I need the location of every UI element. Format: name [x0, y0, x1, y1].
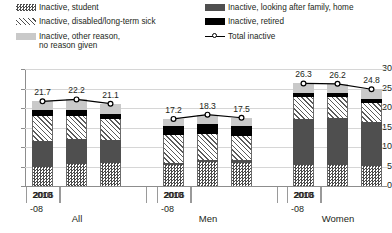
legend-label-retired: Inactive, retired: [228, 17, 284, 26]
legend-item-student: Inactive, student: [16, 3, 99, 12]
total-inactive-marker: [108, 101, 113, 106]
x-axis-category-2013: 2013: [287, 187, 321, 203]
x-axis-category-sub: -08: [291, 204, 304, 214]
legend-item-family: Inactive, looking after family, home: [205, 3, 353, 12]
x-axis-category-sub: -08: [161, 204, 174, 214]
legend-item-retired: Inactive, retired: [205, 17, 284, 26]
total-inactive-value-label: 17.5: [226, 105, 258, 114]
legend-label-total: Total inactive: [228, 32, 275, 41]
total-inactive-value-label: 21.1: [95, 91, 127, 100]
x-axis-category-2013: 2013: [26, 187, 60, 203]
total-inactive-value-label: 17.2: [158, 106, 190, 115]
total-inactive-value-label: 22.2: [61, 86, 93, 95]
legend-label-other-line1: Inactive, other reason,: [39, 32, 120, 41]
diagonal-hatch-swatch-icon: [16, 18, 36, 25]
total-inactive-marker: [369, 87, 374, 92]
total-inactive-value-label: 26.2: [322, 71, 354, 80]
total-inactive-marker: [301, 81, 306, 86]
legend-label-family: Inactive, looking after family, home: [228, 3, 353, 12]
legend-label-student: Inactive, student: [39, 3, 99, 12]
total-inactive-marker: [335, 81, 340, 86]
x-axis-category-2013: 2013: [157, 187, 191, 203]
x-axis-group-label-men: Men: [157, 214, 259, 224]
light-gray-swatch-icon: [16, 33, 36, 40]
x-axis-group-label-women: Women: [287, 214, 389, 224]
total-inactive-value-label: 21.7: [27, 88, 59, 97]
total-inactive-value-label: 26.3: [288, 70, 320, 79]
chart-legend: Inactive, student Inactive, disabled/lon…: [0, 0, 392, 58]
x-axis-category-sub: -08: [30, 204, 43, 214]
legend-label-other-line2: no reason given: [39, 41, 120, 50]
total-inactive-value-label: 18.3: [192, 102, 224, 111]
total-inactive-marker: [239, 115, 244, 120]
x-axis-group-label-all: All: [26, 214, 128, 224]
legend-label-other: Inactive, other reason, no reason given: [39, 32, 120, 51]
black-swatch-icon: [205, 18, 225, 25]
total-inactive-marker: [40, 99, 45, 104]
chart-plot-area: 051015202530 21.722.221.117.218.317.526.…: [0, 58, 392, 233]
legend-item-total: Total inactive: [205, 32, 275, 41]
legend-item-sick: Inactive, disabled/long-term sick: [16, 17, 156, 26]
x-axis-gap-tick: [277, 187, 278, 203]
legend-item-other: Inactive, other reason, no reason given: [16, 32, 120, 51]
legend-label-sick: Inactive, disabled/long-term sick: [39, 17, 156, 26]
checkerboard-swatch-icon: [16, 4, 36, 11]
x-axis-gap-tick: [146, 187, 147, 203]
total-inactive-marker: [171, 117, 176, 122]
total-inactive-value-label: 24.8: [356, 76, 388, 85]
total-inactive-line-svg: [0, 58, 392, 233]
total-inactive-marker: [74, 97, 79, 102]
dark-gray-swatch-icon: [205, 4, 225, 11]
total-inactive-marker: [205, 112, 210, 117]
line-marker-swatch-icon: [205, 33, 225, 40]
